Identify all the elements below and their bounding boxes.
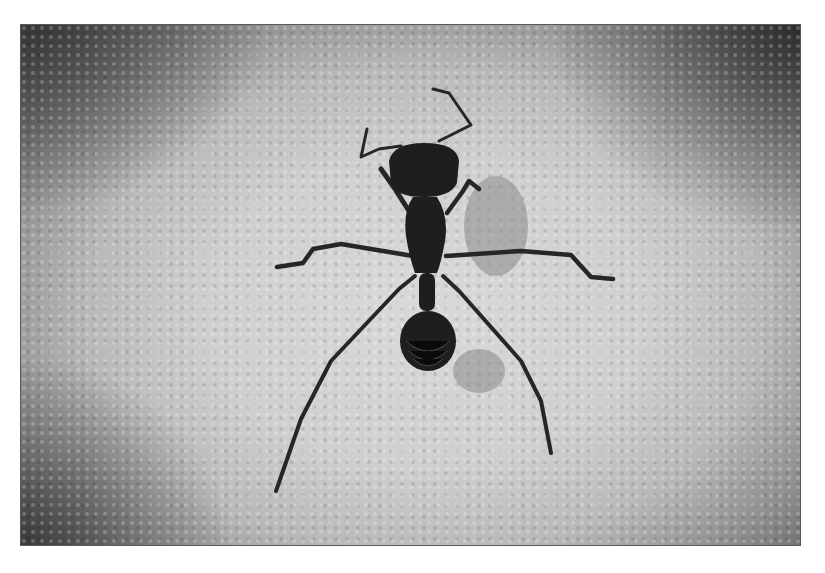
ant-photograph	[20, 24, 801, 546]
ant-figure	[21, 25, 801, 546]
middle-right-leg	[446, 251, 613, 279]
middle-left-leg	[277, 244, 413, 267]
ant-thorax	[405, 197, 446, 273]
hind-left-leg	[276, 276, 415, 491]
ant-shadow	[453, 176, 528, 393]
right-antenna	[433, 89, 471, 141]
ant-petiole	[419, 273, 435, 311]
ant-head	[389, 143, 459, 197]
